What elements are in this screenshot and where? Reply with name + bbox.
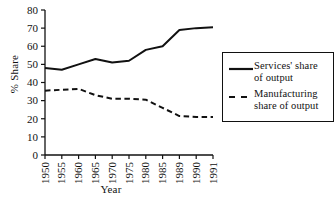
y-tick-label: 10 <box>27 131 39 143</box>
series-line <box>45 89 213 117</box>
y-tick-label: 20 <box>27 113 39 125</box>
legend-item-services: Services' share of output <box>228 60 329 83</box>
x-tick-label: 1950 <box>39 162 51 185</box>
x-axis-ticks: 1950195519601965197019751980198519891990… <box>39 155 219 184</box>
x-tick-label: 1960 <box>72 162 84 185</box>
legend-label-manufacturing: Manufacturing share of output <box>254 88 319 111</box>
series-line <box>45 27 213 70</box>
legend-label-services-line1: Services' share <box>254 60 318 71</box>
y-tick-label: 40 <box>27 76 39 88</box>
legend-item-manufacturing: Manufacturing share of output <box>228 88 329 111</box>
y-tick-label: 30 <box>27 94 39 106</box>
x-tick-label: 1975 <box>123 162 135 185</box>
legend-label-manufacturing-line2: share of output <box>254 100 319 111</box>
chart-figure: % Share Year 01020304050607080 195019551… <box>0 0 336 202</box>
x-tick-label: 1955 <box>55 162 67 185</box>
legend-key-dashed-line-icon <box>228 88 254 99</box>
x-tick-label: 1970 <box>106 162 118 185</box>
legend-label-services-line2: of output <box>254 72 293 83</box>
x-tick-label: 1980 <box>139 162 151 185</box>
x-tick-label: 1989 <box>173 162 185 185</box>
chart-legend: Services' share of output Manufacturing … <box>222 52 334 122</box>
legend-key-solid-line-icon <box>228 60 254 71</box>
y-axis-ticks: 01020304050607080 <box>27 4 45 161</box>
y-tick-label: 70 <box>27 22 39 34</box>
x-tick-label: 1990 <box>190 162 202 185</box>
y-tick-label: 0 <box>33 149 39 161</box>
y-tick-label: 50 <box>27 58 39 70</box>
legend-label-manufacturing-line1: Manufacturing <box>254 88 318 99</box>
series-layer <box>45 27 213 117</box>
x-tick-label: 1991 <box>207 162 219 184</box>
y-tick-label: 60 <box>27 40 39 52</box>
legend-label-services: Services' share of output <box>254 60 318 83</box>
x-tick-label: 1965 <box>89 162 101 185</box>
x-tick-label: 1985 <box>156 162 168 185</box>
y-tick-label: 80 <box>27 4 39 16</box>
